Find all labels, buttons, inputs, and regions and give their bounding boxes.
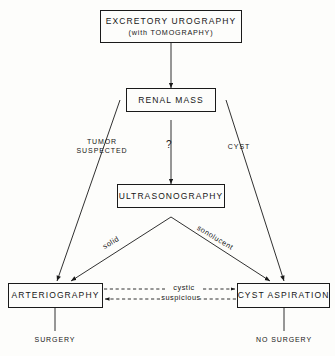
edge-label-tumor-suspected-line1: TUMOR	[70, 137, 134, 146]
edge-label-cystic: cystic	[163, 283, 205, 293]
node-ultrasonography-label: ULTRASONOGRAPHY	[119, 191, 224, 202]
connector-renal-mass-to-arteriography	[57, 100, 120, 281]
node-ultrasonography[interactable]: ULTRASONOGRAPHY	[117, 184, 225, 208]
node-excretory-urography-line1: EXCRETORY UROGRAPHY	[106, 16, 236, 27]
edge-label-tumor-suspected: TUMOR SUSPECTED	[70, 137, 134, 155]
node-cyst-aspiration[interactable]: CYST ASPIRATION	[237, 283, 330, 308]
connector-ultrasonography-to-cyst-aspiration	[171, 217, 270, 281]
node-excretory-urography-line2: (with TOMOGRAPHY)	[129, 28, 214, 37]
edge-label-cyst: CYST	[219, 142, 259, 151]
node-cyst-aspiration-label: CYST ASPIRATION	[238, 290, 330, 301]
edge-label-tumor-suspected-line2: SUSPECTED	[70, 146, 134, 155]
node-excretory-urography[interactable]: EXCRETORY UROGRAPHY (with TOMOGRAPHY)	[100, 10, 242, 43]
node-arteriography[interactable]: ARTERIOGRAPHY	[8, 283, 103, 308]
outcome-no-surgery: NO SURGERY	[250, 336, 318, 343]
node-arteriography-label: ARTERIOGRAPHY	[12, 290, 100, 301]
edge-label-question-mark: ?	[166, 139, 172, 150]
node-renal-mass-label: RENAL MASS	[138, 95, 203, 106]
connector-ultrasonography-to-arteriography	[71, 217, 171, 281]
flowchart-canvas: EXCRETORY UROGRAPHY (with TOMOGRAPHY) RE…	[0, 0, 335, 356]
edge-label-suspicious: suspicious	[156, 293, 206, 303]
node-renal-mass[interactable]: RENAL MASS	[126, 88, 216, 112]
outcome-surgery: SURGERY	[25, 336, 85, 343]
